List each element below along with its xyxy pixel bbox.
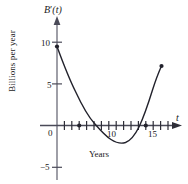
curve-marked-points (55, 44, 164, 127)
y-tick-label-10: 10 (41, 38, 50, 48)
y-tick-label-5: 5 (47, 80, 52, 90)
x-tick-label-10: 10 (107, 129, 116, 139)
y-axis-variable-arg: (t) (52, 4, 61, 15)
y-axis (54, 16, 61, 180)
y-axis-title: Billions per year (7, 23, 17, 99)
x-tick-label-15: 15 (148, 129, 157, 139)
origin-label: 0 (48, 128, 53, 138)
x-axis-title: Years (89, 149, 109, 159)
x-axis-variable-label: t (176, 112, 179, 123)
y-axis-variable-label: B′(t) (44, 4, 62, 15)
y-tick-label-minus-5: −5 (40, 162, 50, 172)
chart-figure: Billions per year B′(t) t 10 5 0 −5 10 1… (0, 0, 188, 184)
